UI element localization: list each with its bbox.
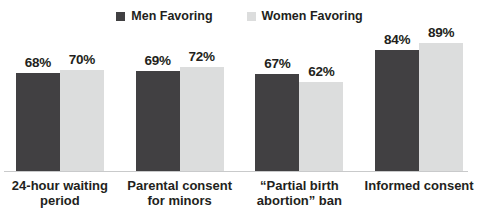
bar-group: 68% 70% — [5, 34, 115, 171]
value-label-women: 70% — [60, 53, 104, 67]
legend-label-men: Men Favoring — [131, 10, 212, 23]
category-labels: 24-hour waiting period Parental consent … — [0, 176, 479, 221]
legend-label-women: Women Favoring — [262, 10, 363, 23]
category-label: Informed consent — [361, 176, 477, 221]
chart-legend: Men Favoring Women Favoring — [0, 10, 479, 23]
legend-item-women: Women Favoring — [247, 10, 363, 23]
value-label-men: 68% — [16, 56, 60, 70]
bar-women — [419, 43, 463, 171]
plot-area: 68% 70% 69% 72% — [0, 34, 479, 171]
bar-women — [299, 82, 343, 171]
bar-wrap-women: 89% — [419, 34, 463, 171]
category-label: 24-hour waiting period — [2, 176, 118, 221]
bar-men — [255, 74, 299, 171]
legend-swatch-men-icon — [116, 12, 125, 21]
bar-wrap-men: 69% — [136, 34, 180, 171]
bar-women — [180, 67, 224, 171]
bar-women — [60, 70, 104, 171]
legend-swatch-women-icon — [247, 12, 256, 21]
bar-men — [136, 71, 180, 171]
bar-wrap-women: 72% — [180, 34, 224, 171]
bar-men — [375, 50, 419, 171]
bar-groups: 68% 70% 69% 72% — [0, 34, 479, 171]
legend-item-men: Men Favoring — [116, 10, 212, 23]
bar-group: 69% 72% — [125, 34, 235, 171]
value-label-men: 67% — [255, 57, 299, 71]
bar-chart: Men Favoring Women Favoring 68% 70% 69% — [0, 0, 479, 221]
bar-wrap-men: 68% — [16, 34, 60, 171]
category-label: “Partial birth abortion” ban — [241, 176, 357, 221]
bar-group: 84% 89% — [364, 34, 474, 171]
bar-wrap-men: 84% — [375, 34, 419, 171]
bar-wrap-women: 62% — [299, 34, 343, 171]
value-label-women: 62% — [299, 65, 343, 79]
bar-wrap-men: 67% — [255, 34, 299, 171]
bar-group: 67% 62% — [244, 34, 354, 171]
bar-wrap-women: 70% — [60, 34, 104, 171]
value-label-men: 69% — [136, 54, 180, 68]
value-label-women: 89% — [419, 26, 463, 40]
value-label-women: 72% — [180, 50, 224, 64]
value-label-men: 84% — [375, 33, 419, 47]
bar-men — [16, 73, 60, 171]
category-label: Parental consent for minors — [122, 176, 238, 221]
axis-baseline — [4, 171, 468, 172]
